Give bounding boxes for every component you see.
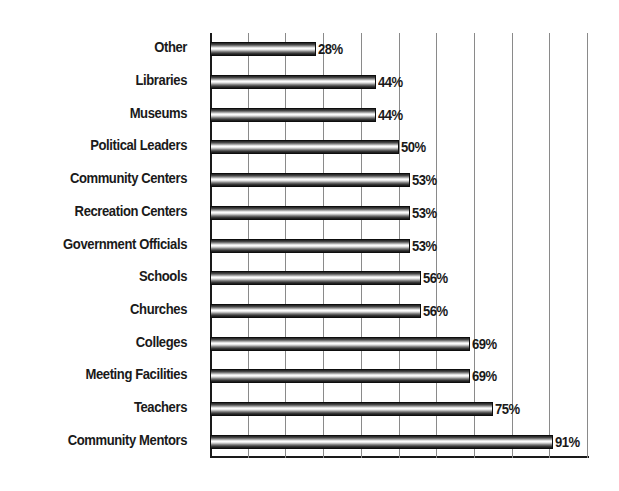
category-label: Schools [16,269,187,284]
bar-value-label: 91% [555,433,580,451]
bar [210,108,376,122]
gridline [587,33,588,458]
gridline [474,33,475,458]
bar [210,239,410,253]
bar-value-label: 53% [412,237,437,255]
category-label: Colleges [16,335,187,350]
bar-value-label: 44% [378,73,403,91]
category-label: Recreation Centers [16,204,187,219]
bar [210,402,493,416]
bar-value-label: 50% [401,138,426,156]
bar [210,337,470,351]
bar [210,435,553,449]
category-label: Teachers [16,400,187,415]
bar-value-label: 69% [472,335,497,353]
bar [210,206,410,220]
bar-value-label: 53% [412,204,437,222]
bar [210,369,470,383]
category-axis-line [210,456,589,458]
bar-value-label: 56% [423,302,448,320]
bar [210,271,421,285]
bar [210,140,399,154]
bar-value-label: 53% [412,171,437,189]
category-label: Meeting Facilities [16,367,187,382]
category-label: Political Leaders [16,138,187,153]
category-label: Museums [16,106,187,121]
bar [210,42,316,56]
category-label: Government Officials [16,237,187,252]
bar-value-label: 56% [423,269,448,287]
plot-area: 28%44%44%50%53%53%53%56%56%69%69%75%91% [210,33,587,458]
bar [210,304,421,318]
bar-value-label: 69% [472,367,497,385]
bar-value-label: 44% [378,106,403,124]
category-label: Libraries [16,73,187,88]
category-label: Community Centers [16,171,187,186]
bar-value-label: 75% [495,400,520,418]
category-axis-labels: OtherLibrariesMuseumsPolitical LeadersCo… [0,33,199,458]
category-label: Community Mentors [16,433,187,448]
bar-chart: OtherLibrariesMuseumsPolitical LeadersCo… [0,0,619,491]
bar [210,75,376,89]
gridline [512,33,513,458]
category-label: Churches [16,302,187,317]
bar [210,173,410,187]
bar-value-label: 28% [318,40,343,58]
gridline [549,33,550,458]
category-label: Other [16,40,187,55]
